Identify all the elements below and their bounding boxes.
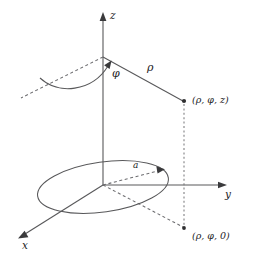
cylindrical-coordinates-figure: z y x φ ρ a (ρ, φ, z) (ρ, φ, 0) <box>0 0 263 263</box>
point-label-lower: (ρ, φ, 0) <box>192 231 230 241</box>
point-label-upper: (ρ, φ, z) <box>192 95 229 105</box>
radius-a-label: a <box>133 161 138 170</box>
x-axis-line <box>25 185 103 234</box>
ground-projection-line <box>103 185 183 227</box>
point-marker-lower <box>182 226 186 230</box>
point-marker-upper <box>182 99 186 103</box>
rho-length-label: ρ <box>147 62 153 73</box>
y-axis-label: y <box>225 189 231 200</box>
z-axis-arrowhead <box>100 12 107 21</box>
phi-reference-ray <box>21 57 103 98</box>
radius-a-line <box>103 171 158 185</box>
z-axis-label: z <box>110 10 116 21</box>
diagram-canvas <box>0 0 263 263</box>
x-axis-label: x <box>22 240 28 251</box>
x-axis-arrowhead <box>18 231 28 239</box>
phi-angle-label: φ <box>112 68 120 79</box>
phi-arc-arrowhead <box>104 61 112 69</box>
phi-angle-arc <box>40 66 108 89</box>
radius-a-arrowhead <box>156 166 165 173</box>
